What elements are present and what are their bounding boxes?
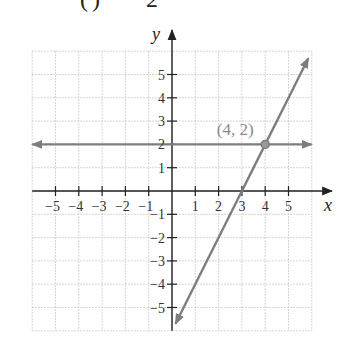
y-tick-label: −1	[150, 207, 165, 222]
tick-labels: −5−4−3−2−112345−5−4−3−2−112345xy	[45, 24, 332, 316]
intersection-point	[261, 140, 269, 148]
x-tick-label: −4	[68, 199, 83, 214]
x-axis-label: x	[323, 195, 332, 215]
x-tick-label: −3	[92, 199, 107, 214]
coordinate-plane: −5−4−3−2−112345−5−4−3−2−112345xy (4, 2)	[0, 0, 348, 340]
y-tick-label: 1	[158, 161, 165, 176]
y-axis-label: y	[150, 24, 160, 44]
x-tick-label: −2	[115, 199, 130, 214]
axes	[32, 30, 332, 331]
y-tick-label: −5	[150, 301, 165, 316]
x-tick-label: 1	[192, 199, 199, 214]
y-tick-label: 3	[158, 114, 165, 129]
y-tick-label: −3	[150, 254, 165, 269]
x-tick-label: 5	[285, 199, 292, 214]
x-tick-label: −5	[45, 199, 60, 214]
y-tick-label: −4	[150, 277, 165, 292]
x-tick-label: 3	[238, 199, 245, 214]
y-tick-label: −2	[150, 231, 165, 246]
x-tick-label: 4	[262, 199, 269, 214]
y-tick-label: 2	[158, 137, 165, 152]
y-tick-label: 5	[158, 68, 165, 83]
y-tick-label: 4	[158, 91, 165, 106]
point-label: (4, 2)	[217, 120, 254, 139]
x-tick-label: 2	[215, 199, 222, 214]
